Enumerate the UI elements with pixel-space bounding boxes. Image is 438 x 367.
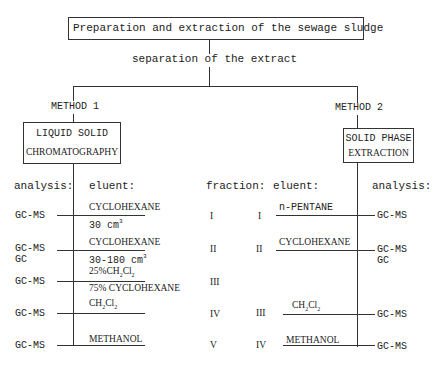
m2-row2-fraction: II: [256, 244, 262, 254]
m1-row3-analysis: GC-MS: [15, 276, 45, 287]
header-analysis-right: analysis:: [372, 180, 431, 192]
m1-row1-line: [57, 215, 145, 216]
sample-preparation-box: Preparation and extraction of the sewage…: [68, 17, 364, 40]
m1-row1-eluent-detail: 30 cm3: [89, 218, 123, 231]
method-1-box-line1: LIQUID SOLID: [24, 128, 120, 139]
m2-row4-line: [283, 345, 375, 346]
m1-row2-fraction: II: [210, 244, 216, 254]
m1-row1-eluent: CYCLOHEXANE: [89, 202, 160, 212]
m2-row1-eluent: n-PENTANE: [279, 202, 333, 213]
m1-row5-fraction: V: [210, 340, 217, 350]
m1-row4-analysis: GC-MS: [15, 308, 45, 319]
sample-preparation-title: Preparation and extraction of the sewage…: [73, 22, 383, 34]
method-2-spine: [357, 163, 358, 347]
m1-row3-fraction: III: [210, 277, 220, 287]
connector-top-lower: [209, 67, 210, 87]
connector-top-upper: [209, 40, 210, 54]
branch-right-drop: [357, 86, 358, 103]
m1-row4-eluent: CH2Cl2: [89, 298, 117, 310]
method-1-connector: [73, 114, 74, 122]
method-2-connector: [357, 115, 358, 128]
m1-row2-eluent-detail: 30-180 cm3: [89, 253, 147, 266]
m2-row4-fraction: IV: [256, 340, 266, 350]
m1-row3-eluent: 75% CYCLOHEXANE: [89, 283, 180, 293]
branch-horizontal-line: [73, 86, 358, 87]
m2-row2-line: [276, 250, 375, 251]
m1-row2-line: [57, 250, 145, 251]
m2-row3-line: [283, 314, 375, 315]
method-1-box-line2: CHROMATOGRAPHY: [24, 147, 120, 157]
header-fraction: fraction:: [206, 180, 265, 192]
m2-row2-analysis: GC-MS: [377, 244, 407, 255]
header-eluent-left: eluent:: [89, 180, 135, 192]
header-eluent-right: eluent:: [273, 180, 319, 192]
m2-row3-analysis: GC-MS: [377, 309, 407, 320]
method-2-box-line1: SOLID PHASE: [344, 133, 413, 144]
solid-phase-extraction-box: SOLID PHASE EXTRACTION: [343, 128, 414, 163]
m2-row4-eluent: METHANOL: [286, 335, 339, 345]
liquid-solid-chromatography-box: LIQUID SOLID CHROMATOGRAPHY: [23, 122, 121, 164]
m1-row4-line: [57, 313, 145, 314]
m1-row1-analysis: GC-MS: [15, 210, 45, 221]
m1-row2-analysis: GC-MS: [15, 243, 45, 254]
m1-row3-eluent-top: 25%CH2Cl2: [89, 266, 135, 278]
m1-row1-fraction: I: [210, 211, 213, 221]
header-analysis-left: analysis:: [14, 180, 73, 192]
m1-row2-eluent: CYCLOHEXANE: [89, 237, 160, 247]
m2-row1-line: [276, 215, 375, 216]
m1-row5-line: [57, 345, 145, 346]
m2-row1-fraction: I: [258, 211, 261, 221]
m1-row4-fraction: IV: [210, 309, 220, 319]
m2-row3-eluent: CH2Cl2: [292, 300, 320, 312]
m1-row5-eluent: METHANOL: [89, 334, 142, 344]
branch-left-drop: [73, 86, 74, 101]
m2-row1-analysis: GC-MS: [377, 210, 407, 221]
m2-row2-eluent: CYCLOHEXANE: [279, 237, 350, 247]
m2-row2-analysis2: GC: [377, 255, 389, 266]
method-1-label: METHOD 1: [51, 101, 99, 112]
m1-row2-analysis2: GC: [15, 254, 27, 265]
m2-row4-analysis: GC-MS: [377, 341, 407, 352]
m2-row3-fraction: III: [256, 308, 266, 318]
method-2-box-line2: EXTRACTION: [344, 148, 413, 158]
m1-row3-line: [57, 281, 145, 282]
separation-step-label: separation of the extract: [132, 53, 297, 65]
m1-row5-analysis: GC-MS: [15, 340, 45, 351]
method-2-label: METHOD 2: [335, 102, 383, 113]
